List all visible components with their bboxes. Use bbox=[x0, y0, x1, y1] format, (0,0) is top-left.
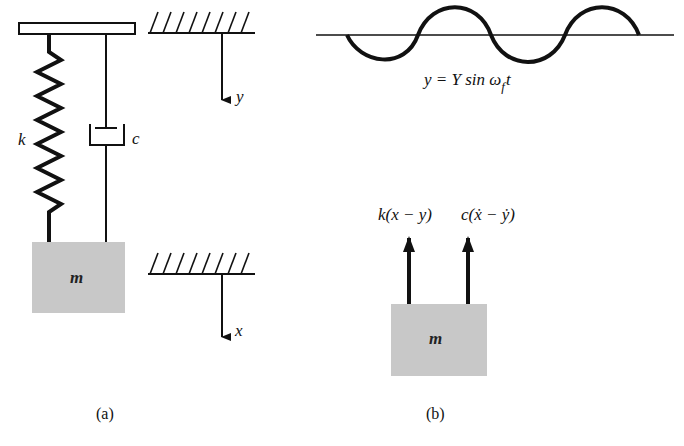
ground-hatch-bottom bbox=[148, 253, 255, 274]
moving-support-plate bbox=[19, 23, 135, 34]
vibration-diagram: m k c y x bbox=[0, 0, 684, 446]
damper-label-c: c bbox=[132, 129, 140, 148]
x-label: x bbox=[234, 321, 243, 340]
figure-a: m k c y x bbox=[18, 12, 255, 423]
damper-c bbox=[90, 34, 124, 242]
damper-force-arrowhead bbox=[462, 236, 474, 252]
spring-k bbox=[37, 34, 61, 242]
mass-label-b: m bbox=[429, 329, 442, 348]
ground-hatch-top bbox=[148, 12, 255, 33]
mass-label-a: m bbox=[70, 268, 83, 287]
excitation-equation: y = Y sin ωft bbox=[422, 70, 512, 94]
figure-b: y = Y sin ωft k(x − y) c(ẋ − ẏ) m (b) bbox=[316, 7, 674, 423]
damper-force-label: c(ẋ − ẏ) bbox=[461, 205, 515, 224]
caption-b: (b) bbox=[426, 405, 445, 423]
spring-force-arrowhead bbox=[403, 236, 415, 252]
y-label: y bbox=[234, 87, 244, 106]
caption-a: (a) bbox=[96, 405, 114, 423]
spring-force-label: k(x − y) bbox=[378, 205, 432, 224]
spring-label-k: k bbox=[18, 130, 26, 149]
